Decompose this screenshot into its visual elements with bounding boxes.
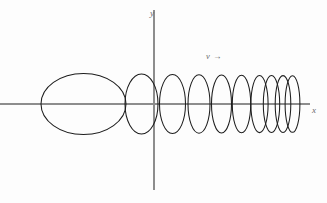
y-axis-label: y (150, 9, 154, 18)
diagram-canvas (0, 0, 327, 203)
x-axis-label: x (312, 106, 316, 115)
drift-velocity-label: v → (206, 52, 222, 61)
figure-root: y x v → (0, 0, 327, 203)
figure-background (0, 0, 327, 203)
